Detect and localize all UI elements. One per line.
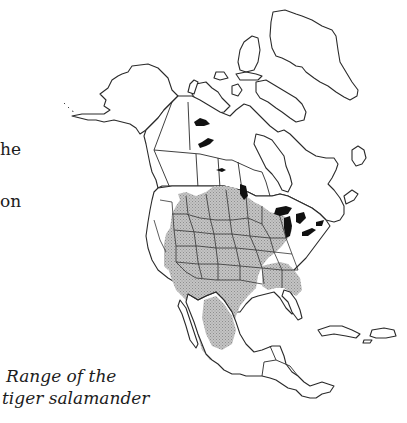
aleutian-islands <box>64 103 75 112</box>
greenland <box>270 10 358 100</box>
caption-line-2: tiger salamander <box>2 387 149 409</box>
figure-caption: Range of the tiger salamander <box>2 365 149 409</box>
cuba <box>318 326 360 338</box>
baffin-island <box>256 80 306 122</box>
nova-scotia <box>344 190 358 204</box>
hispaniola <box>370 328 396 338</box>
newfoundland <box>352 146 366 166</box>
caption-line-1: Range of the <box>2 365 149 387</box>
small-arctic-island <box>214 72 228 80</box>
arctic-island <box>236 72 262 80</box>
puerto-rico <box>363 340 372 343</box>
ellesmere-island <box>238 36 260 72</box>
range-map <box>0 0 407 423</box>
small-arctic-island <box>232 84 242 96</box>
